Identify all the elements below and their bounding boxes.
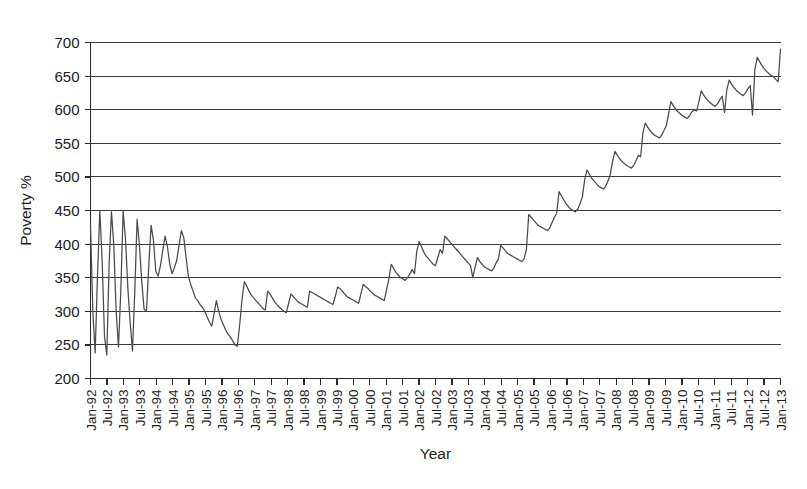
x-tick-label: Jan-02 — [412, 390, 427, 431]
x-tick-label: Jul-96 — [231, 390, 246, 427]
x-axis-ticks-group — [91, 379, 781, 385]
y-tick-label: 300 — [54, 303, 79, 320]
x-tick-label: Jan-11 — [708, 390, 723, 430]
y-tick-label: 600 — [54, 101, 79, 118]
y-tick-label: 500 — [54, 168, 79, 185]
x-tick-label: Jul-02 — [429, 390, 444, 427]
x-tick-label: Jul-11 — [724, 390, 739, 426]
gridlines-group — [91, 43, 781, 345]
x-tick-label: Jan-06 — [544, 390, 559, 431]
x-tick-label: Jan-03 — [445, 390, 460, 431]
x-tick-label: Jan-98 — [281, 390, 296, 431]
x-tick-label: Jan-01 — [379, 390, 394, 431]
x-tick-label: Jan-08 — [609, 390, 624, 431]
x-tick-label: Jul-09 — [659, 390, 674, 427]
x-tick-label: Jul-99 — [330, 390, 345, 427]
y-tick-label: 450 — [54, 202, 79, 219]
y-tick-label: 250 — [54, 336, 79, 353]
x-tick-label: Jan-04 — [478, 389, 493, 431]
x-axis-title: Year — [420, 445, 451, 462]
x-tick-label: Jan-96 — [215, 390, 230, 431]
x-tick-label: Jul-00 — [363, 390, 378, 427]
x-tick-label: Jul-92 — [100, 390, 115, 427]
poverty-series-line — [91, 49, 781, 355]
x-tick-label: Jul-01 — [396, 390, 411, 427]
x-tick-label: Jan-13 — [774, 390, 789, 431]
x-tick-label: Jul-08 — [626, 390, 641, 427]
x-tick-label: Jan-00 — [346, 390, 361, 431]
y-axis-ticks-group: 200250300350400450500550600650700 — [54, 34, 90, 387]
x-tick-label: Jul-12 — [757, 390, 772, 427]
x-tick-label: Jan-93 — [116, 390, 131, 431]
x-tick-label: Jan-92 — [84, 390, 99, 431]
x-tick-label: Jan-10 — [675, 390, 690, 431]
y-tick-label: 350 — [54, 269, 79, 286]
x-tick-label: Jul-93 — [133, 390, 148, 427]
x-tick-label: Jul-95 — [199, 390, 214, 427]
y-tick-label: 200 — [54, 370, 79, 387]
x-tick-label: Jan-12 — [741, 390, 756, 431]
y-tick-label: 650 — [54, 68, 79, 85]
x-axis-labels-group: Jan-92Jul-92Jan-93Jul-93Jan-94Jul-94Jan-… — [84, 389, 789, 431]
x-tick-label: Jul-04 — [494, 389, 509, 426]
x-tick-label: Jul-03 — [461, 390, 476, 427]
x-tick-label: Jan-95 — [182, 390, 197, 431]
chart-canvas: 200250300350400450500550600650700 Jan-92… — [0, 0, 807, 489]
x-tick-label: Jul-10 — [691, 390, 706, 427]
x-tick-label: Jul-98 — [297, 390, 312, 427]
x-tick-label: Jul-05 — [527, 390, 542, 427]
x-tick-label: Jul-07 — [593, 390, 608, 427]
x-tick-label: Jul-97 — [264, 390, 279, 427]
x-tick-label: Jan-05 — [511, 390, 526, 431]
y-tick-label: 550 — [54, 135, 79, 152]
x-tick-label: Jul-06 — [560, 390, 575, 427]
x-tick-label: Jan-07 — [576, 390, 591, 431]
x-tick-label: Jul-94 — [166, 389, 181, 426]
y-tick-label: 700 — [54, 34, 79, 51]
x-tick-label: Jan-94 — [149, 389, 164, 431]
x-tick-label: Jan-99 — [314, 390, 329, 431]
y-tick-label: 400 — [54, 236, 79, 253]
x-tick-label: Jan-97 — [248, 390, 263, 431]
y-axis-title: Poverty % — [17, 175, 34, 246]
x-tick-label: Jan-09 — [642, 390, 657, 431]
poverty-line-chart: 200250300350400450500550600650700 Jan-92… — [0, 0, 807, 489]
